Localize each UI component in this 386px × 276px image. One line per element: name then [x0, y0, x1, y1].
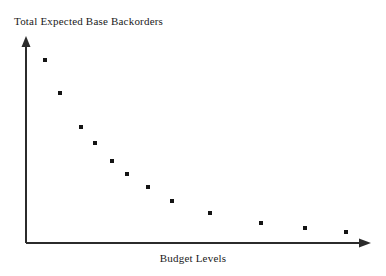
data-points-layer [0, 0, 386, 276]
data-point [170, 199, 174, 203]
scatter-chart: Total Expected Base Backorders Budget Le… [0, 0, 386, 276]
data-point [208, 211, 212, 215]
data-point [125, 172, 129, 176]
data-point [79, 125, 83, 129]
x-axis-title: Budget Levels [0, 252, 386, 264]
data-point [303, 226, 307, 230]
data-point [110, 159, 114, 163]
data-point [93, 141, 97, 145]
data-point [259, 221, 263, 225]
data-point [43, 58, 47, 62]
data-point [58, 91, 62, 95]
data-point [146, 185, 150, 189]
data-point [344, 230, 348, 234]
